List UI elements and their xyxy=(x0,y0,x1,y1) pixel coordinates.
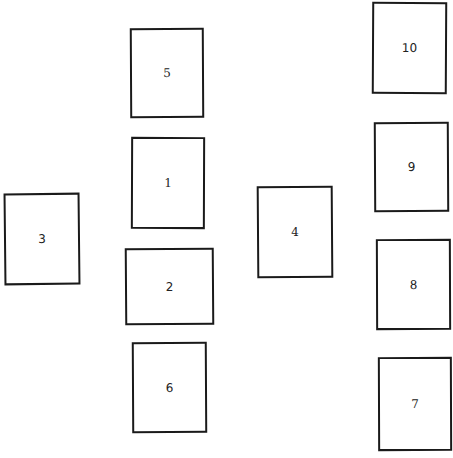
box-1: 1 xyxy=(131,137,205,229)
box-3: 3 xyxy=(4,193,81,286)
box-7: 7 xyxy=(378,357,452,451)
box-2: 2 xyxy=(125,248,215,326)
box-4: 4 xyxy=(257,186,334,279)
box-9-label: 9 xyxy=(408,160,416,174)
box-3-label: 3 xyxy=(38,232,46,246)
diagram-canvas: { "diagram": { "type": "numbered-rectang… xyxy=(0,0,453,458)
box-5-label: 5 xyxy=(163,66,171,80)
box-4-label: 4 xyxy=(291,225,299,239)
box-1-label: 1 xyxy=(164,176,172,190)
box-7-label: 7 xyxy=(411,397,419,411)
box-8-label: 8 xyxy=(410,277,418,291)
box-9: 9 xyxy=(374,122,449,212)
box-10: 10 xyxy=(372,2,447,94)
box-8: 8 xyxy=(376,239,451,330)
box-6: 6 xyxy=(132,342,207,433)
box-10-label: 10 xyxy=(402,41,417,55)
box-2-label: 2 xyxy=(166,279,174,293)
box-5: 5 xyxy=(130,28,204,118)
box-6-label: 6 xyxy=(166,380,174,394)
